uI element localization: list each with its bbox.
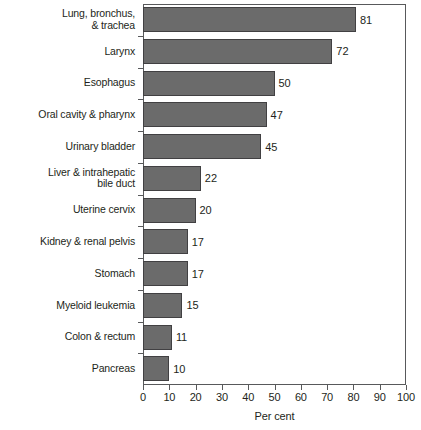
x-axis-tick [169,385,170,390]
x-axis-tick-label: 100 [397,391,415,403]
x-axis-tick [327,385,328,390]
bar-value-label: 45 [265,141,277,153]
x-axis-tick-label: 80 [347,391,359,403]
bar-value-label: 15 [186,299,198,311]
x-axis-tick-label: 90 [374,391,386,403]
bar-row: Stomach17 [0,258,421,289]
x-axis-tick [248,385,249,390]
bar[interactable] [143,229,188,254]
bar-row: Uterine cervix20 [0,195,421,226]
bar-track: 47 [143,99,406,130]
x-axis-tick-label: 20 [190,391,202,403]
bar-track: 72 [143,36,406,67]
category-label: Pancreas [0,363,139,375]
bar[interactable] [143,198,196,223]
bar[interactable] [143,134,261,159]
category-label: Urinary bladder [0,141,139,153]
category-label: Uterine cervix [0,204,139,216]
x-axis: Per cent 0102030405060708090100 [143,385,406,430]
category-label: Stomach [0,268,139,280]
bar-track: 17 [143,226,406,257]
bar-row: Esophagus50 [0,68,421,99]
x-axis-tick [406,385,407,390]
x-axis-tick-label: 50 [269,391,281,403]
x-axis-tick-label: 60 [295,391,307,403]
bar[interactable] [143,71,275,96]
bar-row: Oral cavity & pharynx47 [0,99,421,130]
bar-row: Kidney & renal pelvis17 [0,226,421,257]
x-axis-tick [275,385,276,390]
bar-row: Myeloid leukemia15 [0,290,421,321]
x-axis-tick [301,385,302,390]
x-axis-tick [380,385,381,390]
x-axis-tick [222,385,223,390]
bar-value-label: 22 [205,172,217,184]
bar-chart: Lung, bronchus, & trachea81Larynx72Esoph… [0,0,421,430]
category-label: Oral cavity & pharynx [0,109,139,121]
bar-rows-container: Lung, bronchus, & trachea81Larynx72Esoph… [0,4,421,385]
bar-value-label: 47 [271,109,283,121]
bar-value-label: 17 [192,268,204,280]
bar[interactable] [143,39,332,64]
x-axis-tick-label: 40 [242,391,254,403]
category-label: Esophagus [0,77,139,89]
bar-track: 11 [143,322,406,353]
bar-value-label: 81 [360,14,372,26]
category-label: Lung, bronchus, & trachea [0,8,139,32]
bar-value-label: 72 [336,45,348,57]
bar-value-label: 11 [176,331,187,343]
bar[interactable] [143,166,201,191]
bar-track: 15 [143,290,406,321]
bar-track: 81 [143,4,406,35]
x-axis-tick [353,385,354,390]
x-axis-tick-label: 30 [216,391,228,403]
bar-row: Urinary bladder45 [0,131,421,162]
category-label: Kidney & renal pelvis [0,236,139,248]
bar-value-label: 10 [173,363,185,375]
x-axis-tick [196,385,197,390]
category-label: Liver & intrahepatic bile duct [0,167,139,191]
bar-row: Liver & intrahepatic bile duct22 [0,163,421,194]
bar[interactable] [143,7,356,32]
x-axis-tick-label: 0 [140,391,146,403]
bar-value-label: 17 [192,236,204,248]
bar-row: Colon & rectum11 [0,322,421,353]
bar[interactable] [143,293,182,318]
x-axis-tick-label: 10 [163,391,175,403]
x-axis-title: Per cent [143,410,406,422]
bar-value-label: 50 [279,77,291,89]
bar-track: 20 [143,195,406,226]
bar[interactable] [143,261,188,286]
x-axis-tick-label: 70 [321,391,333,403]
bar-track: 22 [143,163,406,194]
bar-value-label: 20 [200,204,212,216]
bar[interactable] [143,102,267,127]
bar-row: Larynx72 [0,36,421,67]
bar-track: 10 [143,353,406,384]
category-label: Myeloid leukemia [0,300,139,312]
bar-row: Pancreas10 [0,353,421,384]
bar-track: 17 [143,258,406,289]
category-label: Larynx [0,46,139,58]
x-axis-tick [143,385,144,390]
bar[interactable] [143,356,169,381]
bar-row: Lung, bronchus, & trachea81 [0,4,421,35]
bar-track: 45 [143,131,406,162]
bar-track: 50 [143,68,406,99]
category-label: Colon & rectum [0,331,139,343]
bar[interactable] [143,325,172,350]
